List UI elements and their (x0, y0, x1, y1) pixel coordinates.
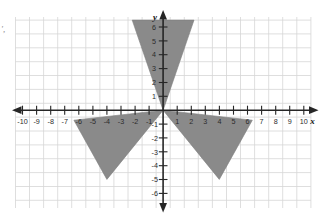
y-tick-label: 2 (152, 78, 156, 87)
x-tick-label: 8 (274, 117, 278, 126)
x-tick-label: 5 (232, 117, 236, 126)
x-tick-label: 2 (189, 117, 193, 126)
x-tick-label: 9 (288, 117, 292, 126)
x-axis-label: x (309, 116, 315, 126)
y-tick-label: -5 (152, 175, 158, 184)
x-tick-label: -8 (47, 117, 53, 126)
y-tick-label: 4 (152, 50, 156, 59)
x-tick-label: -3 (118, 117, 124, 126)
graph-svg: -10 -9 -8 -7 -6 -5 -4 -3 -2 -1 1 2 3 4 5… (0, 0, 331, 221)
x-tick-label: 6 (246, 117, 250, 126)
y-tick-label: 1 (152, 92, 156, 101)
x-tick-label: -6 (76, 117, 82, 126)
x-tick-label: -2 (132, 117, 138, 126)
y-tick-label: -6 (152, 189, 158, 198)
y-tick-label: -3 (152, 148, 158, 157)
x-tick-label: -7 (61, 117, 67, 126)
y-tick-label: 6 (152, 23, 156, 32)
y-tick-label: -2 (152, 134, 158, 143)
y-tick-label: 3 (152, 64, 156, 73)
x-tick-label: -9 (33, 117, 39, 126)
x-tick-label: 7 (260, 117, 264, 126)
x-tick-label: 3 (203, 117, 207, 126)
y-tick-label: 5 (152, 37, 156, 46)
x-tick-label: 1 (175, 117, 179, 126)
coordinate-graph: -10 -9 -8 -7 -6 -5 -4 -3 -2 -1 1 2 3 4 5… (0, 0, 331, 221)
x-tick-label: 4 (217, 117, 221, 126)
x-tick-label: 10 (300, 117, 308, 126)
x-tick-label: -5 (90, 117, 96, 126)
x-tick-label: -10 (17, 117, 27, 126)
y-tick-label: -4 (152, 161, 158, 170)
y-tick-label: -1 (152, 120, 158, 129)
corner-artifact-text: ', (1, 24, 5, 34)
x-tick-label: -4 (104, 117, 110, 126)
